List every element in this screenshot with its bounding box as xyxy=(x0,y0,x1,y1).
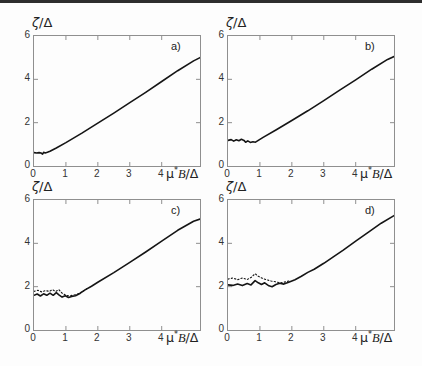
y-tick-label: 6 xyxy=(10,29,30,41)
plot-area xyxy=(33,199,201,331)
curve-solid xyxy=(34,58,200,154)
plot-svg xyxy=(228,36,394,166)
page-rule-top xyxy=(0,0,422,3)
y-tick-label: 4 xyxy=(10,236,30,248)
x-tick-label: 3 xyxy=(315,332,331,344)
x-tick-label: 4 xyxy=(347,332,363,344)
subplot-panel: ζ/Δ d) μ*B/Δ 024601234 xyxy=(202,179,412,343)
y-tick-label: 2 xyxy=(204,116,224,128)
x-tick-label: 1 xyxy=(251,332,267,344)
panel-letter-label: a) xyxy=(171,40,181,52)
y-tick-label: 4 xyxy=(204,236,224,248)
curve-solid xyxy=(228,57,394,143)
y-axis-label-rest: /Δ xyxy=(39,179,52,194)
y-axis-label-rest: /Δ xyxy=(233,179,246,194)
panel-letter-label: b) xyxy=(365,40,375,52)
plot-area xyxy=(227,199,395,331)
x-axis-label-rest: /Δ xyxy=(186,330,199,345)
plot-svg xyxy=(228,200,394,330)
plot-area xyxy=(227,35,395,167)
x-axis-label-b: B xyxy=(178,331,186,345)
plot-area xyxy=(33,35,201,167)
plot-svg xyxy=(34,200,200,330)
y-axis-label-rest: /Δ xyxy=(39,15,52,30)
x-tick-label: 3 xyxy=(121,332,137,344)
curve-solid xyxy=(34,219,200,297)
y-axis-label: ζ/Δ xyxy=(32,15,52,30)
x-tick-label: 0 xyxy=(25,332,41,344)
y-tick-label: 2 xyxy=(10,280,30,292)
plot-svg xyxy=(34,36,200,166)
subplot-panel: ζ/Δ c) μ*B/Δ 024601234 xyxy=(8,179,218,343)
y-tick-label: 6 xyxy=(204,193,224,205)
curve-dotted xyxy=(228,274,290,283)
y-tick-label: 6 xyxy=(204,29,224,41)
y-tick-label: 4 xyxy=(204,72,224,84)
y-axis-label: ζ/Δ xyxy=(226,179,246,194)
figure-canvas: ζ/Δ a) μ*B/Δ 024601234 ζ/Δ b) μ*B/Δ 0246… xyxy=(0,0,422,366)
y-tick-label: 4 xyxy=(10,72,30,84)
x-tick-label: 4 xyxy=(153,332,169,344)
y-tick-label: 2 xyxy=(204,280,224,292)
x-tick-label: 2 xyxy=(283,332,299,344)
panel-letter-label: d) xyxy=(365,204,375,216)
y-axis-label: ζ/Δ xyxy=(226,15,246,30)
x-axis-label: μ*B/Δ xyxy=(360,330,392,346)
x-axis-label-b: B xyxy=(372,331,380,345)
x-axis-label-rest: /Δ xyxy=(380,330,393,345)
x-tick-label: 1 xyxy=(57,332,73,344)
x-tick-label: 0 xyxy=(219,332,235,344)
subplot-panel: ζ/Δ a) μ*B/Δ 024601234 xyxy=(8,15,218,179)
panel-letter-label: c) xyxy=(171,204,180,216)
subplot-panel: ζ/Δ b) μ*B/Δ 024601234 xyxy=(202,15,412,179)
y-tick-label: 6 xyxy=(10,193,30,205)
y-axis-label: ζ/Δ xyxy=(32,179,52,194)
y-axis-label-rest: /Δ xyxy=(233,15,246,30)
y-tick-label: 2 xyxy=(10,116,30,128)
x-axis-label: μ*B/Δ xyxy=(166,330,198,346)
x-tick-label: 2 xyxy=(89,332,105,344)
